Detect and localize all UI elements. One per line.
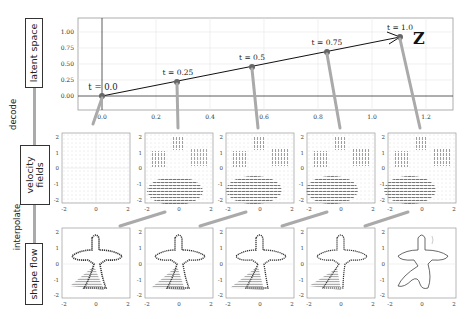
svg-text:-1: -1 [137,277,142,283]
svg-text:1: 1 [301,245,305,251]
svg-text:-2: -2 [380,292,385,298]
svg-text:-2: -2 [218,197,223,203]
svg-text:-2: -2 [225,206,230,212]
svg-text:-2: -2 [54,292,59,298]
svg-text:2: 2 [382,134,386,140]
svg-text:0: 0 [139,165,143,171]
svg-text:0: 0 [382,165,386,171]
svg-text:1: 1 [56,245,60,251]
x-tick: 1.0 [367,113,377,120]
svg-text:0: 0 [94,206,98,212]
svg-text:0: 0 [258,206,262,212]
svg-text:2: 2 [56,229,60,235]
svg-text:1: 1 [139,245,143,251]
svg-text:-2: -2 [144,206,149,212]
svg-text:0: 0 [339,206,343,212]
svg-text:-1: -1 [380,181,385,187]
svg-text:2: 2 [452,206,456,212]
x-tick: 0.4 [205,113,215,120]
svg-text:0: 0 [56,165,60,171]
svg-text:2: 2 [290,301,294,307]
svg-text:-2: -2 [306,301,311,307]
svg-text:-2: -2 [387,301,392,307]
z-label: Z [413,29,425,48]
svg-text:-2: -2 [218,292,223,298]
svg-text:-1: -1 [54,277,59,283]
svg-text:2: 2 [382,229,386,235]
svg-text:2: 2 [139,229,143,235]
svg-text:-2: -2 [306,206,311,212]
svg-text:1: 1 [301,150,305,156]
x-tick: 0.2 [151,113,161,120]
svg-text:0: 0 [220,165,224,171]
svg-text:-1: -1 [218,181,223,187]
velocity-ticks: -202 -202 -202 -202 -202 [61,206,455,212]
y-tick: 0.00 [61,92,75,99]
svg-text:2: 2 [126,301,130,307]
svg-text:0: 0 [339,301,343,307]
svg-text:-1: -1 [54,181,59,187]
svg-text:0: 0 [420,301,424,307]
svg-text:-2: -2 [61,206,66,212]
point-label: t = 0.0 [88,82,117,92]
interpolate-connectors [120,212,408,226]
svg-text:1: 1 [382,150,386,156]
x-tick: 0.0 [97,113,107,120]
svg-text:2: 2 [371,301,375,307]
svg-text:-1: -1 [218,277,223,283]
svg-text:0: 0 [301,261,305,267]
svg-text:-2: -2 [61,301,66,307]
svg-text:0: 0 [139,261,143,267]
svg-text:2: 2 [220,229,224,235]
svg-text:-2: -2 [387,206,392,212]
svg-text:1: 1 [220,150,224,156]
svg-text:2: 2 [209,301,213,307]
svg-text:2: 2 [371,206,375,212]
y-tick: 0.25 [61,76,75,83]
svg-text:-1: -1 [380,277,385,283]
svg-text:2: 2 [126,206,130,212]
svg-text:-2: -2 [137,197,142,203]
y-tick: 0.75 [61,44,75,51]
svg-text:-2: -2 [225,301,230,307]
svg-text:2: 2 [301,134,305,140]
point-label: t = 0.5 [239,53,265,62]
point-label: t = 0.25 [163,68,194,77]
svg-text:2: 2 [220,134,224,140]
svg-text:1: 1 [56,150,60,156]
svg-text:-2: -2 [144,301,149,307]
svg-text:0: 0 [177,206,181,212]
figure-canvas: 1.00 0.75 0.50 0.25 0.00 0.0 0.2 0.4 0.6… [0,0,473,319]
svg-text:0: 0 [56,261,60,267]
y-tick: 0.50 [61,60,75,67]
svg-text:0: 0 [420,206,424,212]
svg-text:-2: -2 [137,292,142,298]
svg-text:0: 0 [382,261,386,267]
x-tick: 0.6 [259,113,269,120]
point-label: t = 1.0 [387,23,413,32]
shape-flow-panels: -202 -202 -202 -202 -202 210-1-2 210-1-2… [54,228,456,307]
svg-text:0: 0 [258,301,262,307]
svg-text:-2: -2 [299,197,304,203]
y-tick: 1.00 [61,28,75,35]
svg-text:2: 2 [452,301,456,307]
velocity-field-panels: -202 -202 -202 -202 -202 210-1-2 210-1-2… [54,133,456,212]
svg-text:2: 2 [301,229,305,235]
svg-text:0: 0 [220,261,224,267]
svg-text:-1: -1 [137,181,142,187]
svg-text:1: 1 [220,245,224,251]
svg-text:2: 2 [209,206,213,212]
svg-text:0: 0 [177,301,181,307]
svg-text:1: 1 [139,150,143,156]
svg-text:0: 0 [301,165,305,171]
svg-text:-1: -1 [299,277,304,283]
svg-text:2: 2 [139,134,143,140]
svg-text:0: 0 [94,301,98,307]
svg-text:-2: -2 [54,197,59,203]
svg-text:-2: -2 [380,197,385,203]
svg-text:-1: -1 [299,181,304,187]
x-tick: 0.8 [313,113,323,120]
point-label: t = 0.75 [312,38,343,47]
svg-text:-2: -2 [299,292,304,298]
x-tick: 1.2 [421,113,431,120]
